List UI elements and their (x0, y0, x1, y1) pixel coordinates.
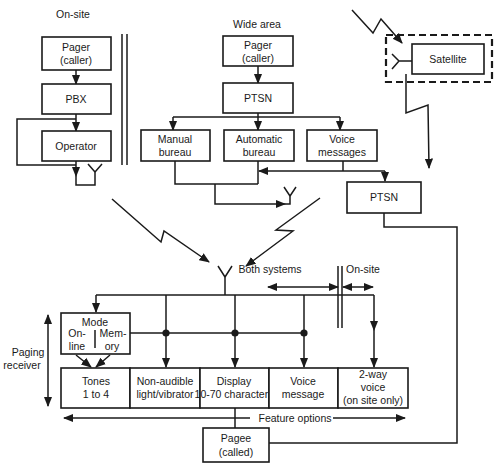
pagee-box: Pagee (called) (203, 428, 269, 462)
on-site-radio-link-arrow (112, 199, 209, 262)
feature-non-audible-label-1: Non-audible (137, 375, 194, 387)
ptsn-box: PTSN (223, 83, 293, 113)
feature-voice-message-box: Voice message (269, 368, 338, 408)
wide-area-antenna-icon (284, 187, 296, 196)
manual-bureau-box: Manual bureau (141, 130, 210, 161)
feature-tones-label-2: 1 to 4 (83, 388, 109, 400)
on-site-scope-label: On-site (346, 263, 380, 275)
memory-label-2: ory (105, 340, 120, 352)
pbx-box: PBX (42, 84, 111, 114)
automatic-bureau-label-1: Automatic (236, 133, 283, 145)
both-systems-label: Both systems (238, 263, 301, 275)
online-label-1: On- (68, 327, 86, 339)
pbx-label: PBX (65, 93, 86, 105)
feature-display-box: Display 10-70 characters (195, 368, 274, 408)
satellite-box: Satellite (412, 44, 484, 74)
pagee-label-2: (called) (219, 446, 253, 458)
junction-dot (162, 329, 169, 336)
feature-voice-message-label-1: Voice (290, 375, 316, 387)
feature-two-way-label-3: (on site only) (343, 394, 403, 406)
paging-system-diagram: On-site Pager (caller) PBX Operator Wide… (0, 0, 499, 470)
satellite-downlink-arrow (406, 74, 429, 168)
wide-area-pager-label-2: (caller) (242, 52, 274, 64)
satellite-antenna-icon (392, 54, 412, 69)
ptsn-2-label: PTSN (370, 191, 398, 203)
feature-non-audible-label-2: light/vibrator (136, 388, 194, 400)
paging-receiver-label-1: Paging (12, 346, 45, 358)
feature-two-way-label-2: voice (361, 381, 386, 393)
wide-area-antenna-feed (285, 196, 290, 204)
junction-dot (231, 329, 238, 336)
memory-to-tones-arrow (96, 355, 110, 367)
on-site-pager-label-1: Pager (62, 41, 91, 53)
on-site-pager-label-2: (caller) (60, 54, 92, 66)
voice-messages-label-2: messages (318, 146, 366, 158)
feature-display-label-1: Display (217, 375, 252, 387)
manual-bureau-label-1: Manual (158, 133, 192, 145)
ptsn-label: PTSN (244, 92, 272, 104)
feature-display-label-2: 10-70 characters (195, 388, 274, 400)
feature-options-label: Feature options (259, 412, 332, 424)
bureau-to-antenna-arrow (215, 184, 285, 204)
operator-box: Operator (42, 131, 111, 161)
voice-messages-box: Voice messages (307, 130, 377, 161)
paging-receiver-label-2: receiver (3, 359, 41, 371)
on-site-antenna-icon (88, 164, 102, 172)
wide-area-heading: Wide area (233, 18, 281, 30)
manual-bureau-output-line (175, 161, 258, 184)
feature-tones-box: Tones 1 to 4 (61, 368, 130, 408)
receiver-section: Mode On- line Mem- ory Both systems On-s… (3, 263, 408, 462)
wide-area-radio-link-arrow (246, 198, 320, 266)
feature-non-audible-box: Non-audible light/vibrator (130, 368, 200, 408)
receiver-antenna-icon (218, 266, 232, 277)
ptsn-2-box: PTSN (347, 182, 421, 213)
operator-label: Operator (55, 140, 97, 152)
online-label-2: line (69, 340, 86, 352)
memory-label-1: Mem- (100, 327, 127, 339)
satellite-label: Satellite (429, 53, 467, 65)
pagee-label-1: Pagee (221, 432, 252, 444)
online-to-tones-arrow (76, 355, 91, 367)
feature-voice-message-label-2: message (282, 388, 325, 400)
voice-messages-label-1: Voice (329, 133, 355, 145)
uplink-to-satellite-arrow (352, 10, 402, 43)
feature-two-way-voice-box: 2-way voice (on site only) (338, 368, 408, 408)
wide-area-pager-box: Pager (caller) (223, 36, 293, 66)
junction-dot (300, 329, 307, 336)
on-site-pager-box: Pager (caller) (42, 37, 111, 70)
feature-two-way-label-1: 2-way (359, 368, 388, 380)
on-site-heading: On-site (56, 8, 90, 20)
manual-bureau-label-2: bureau (159, 146, 192, 158)
wide-area-pager-label-1: Pager (244, 39, 273, 51)
automatic-bureau-label-2: bureau (243, 146, 276, 158)
feature-tones-label-1: Tones (82, 375, 110, 387)
automatic-bureau-box: Automatic bureau (224, 130, 294, 161)
mode-box: Mode On- line Mem- ory (61, 313, 130, 354)
on-site-antenna-feed (76, 172, 95, 185)
on-site-section: On-site Pager (caller) PBX Operator (17, 8, 111, 185)
